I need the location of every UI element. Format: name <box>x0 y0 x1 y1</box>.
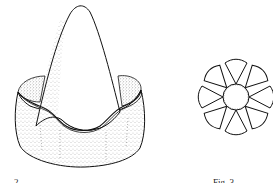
figure-caption-left: 2 <box>14 178 19 183</box>
rosette-center <box>223 84 249 110</box>
figure-caption-right: Fig. 3 <box>213 178 234 183</box>
illustration-canvas <box>0 0 273 183</box>
rosette-figure <box>198 59 273 135</box>
cup-cone-figure <box>15 6 144 167</box>
cup-inner-wall <box>18 76 45 102</box>
